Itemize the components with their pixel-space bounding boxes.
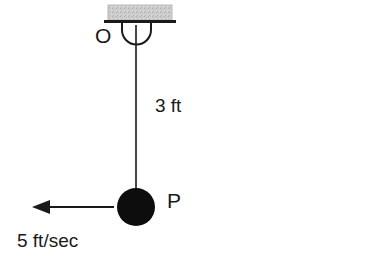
diagram-canvas	[0, 0, 372, 263]
pendulum-bob	[117, 188, 155, 226]
velocity-arrow-head	[32, 200, 50, 214]
velocity-magnitude-label: 5 ft/sec	[17, 231, 78, 250]
pendulum-diagram: O 3 ft P 5 ft/sec	[0, 0, 372, 263]
string-length-label: 3 ft	[155, 96, 181, 115]
ceiling-support-block	[108, 5, 172, 20]
bob-label-P: P	[167, 190, 181, 211]
pivot-label-O: O	[95, 25, 111, 46]
